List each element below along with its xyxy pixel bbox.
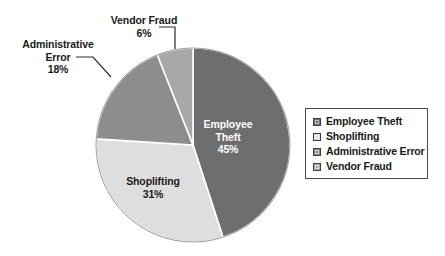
pie-chart-figure: Vendor Fraud 6% Administrative Error 18%…: [0, 0, 445, 256]
slice-label-employee-theft-name-line1: Employee: [196, 118, 260, 131]
slice-label-shoplifting: Shoplifting 31%: [117, 175, 189, 200]
slice-label-employee-theft-pct: 45%: [196, 143, 260, 156]
chart-legend: Employee Theft Shoplifting Administrativ…: [305, 108, 428, 179]
legend-item-shoplifting: Shoplifting: [313, 129, 427, 144]
slice-label-employee-theft-name-line2: Theft: [196, 131, 260, 144]
legend-item-employee-theft: Employee Theft: [313, 114, 427, 129]
slice-label-shoplifting-pct: 31%: [117, 188, 189, 201]
legend-label-vendor-fraud: Vendor Fraud: [326, 161, 392, 172]
slice-label-administrative-error-pct: 18%: [6, 63, 110, 76]
legend-label-employee-theft: Employee Theft: [326, 116, 402, 127]
pie-slices: [96, 48, 290, 242]
slice-label-shoplifting-name: Shoplifting: [126, 175, 180, 187]
slice-label-administrative-error: Administrative Error 18%: [6, 38, 110, 76]
legend-item-administrative-error: Administrative Error: [313, 144, 427, 159]
legend-item-vendor-fraud: Vendor Fraud: [313, 159, 427, 174]
slice-label-vendor-fraud: Vendor Fraud 6%: [98, 14, 190, 39]
legend-swatch-shoplifting: [313, 133, 321, 141]
slice-label-administrative-error-name-line2: Error: [6, 51, 110, 64]
slice-label-employee-theft: Employee Theft 45%: [196, 118, 260, 156]
legend-label-shoplifting: Shoplifting: [326, 131, 379, 142]
legend-swatch-administrative-error: [313, 148, 321, 156]
slice-label-vendor-fraud-name: Vendor Fraud: [111, 14, 177, 26]
slice-label-administrative-error-name-line1: Administrative: [22, 38, 94, 50]
legend-swatch-vendor-fraud: [313, 163, 321, 171]
legend-swatch-employee-theft: [313, 118, 321, 126]
slice-label-vendor-fraud-pct: 6%: [98, 27, 190, 40]
legend-label-administrative-error: Administrative Error: [326, 146, 425, 157]
